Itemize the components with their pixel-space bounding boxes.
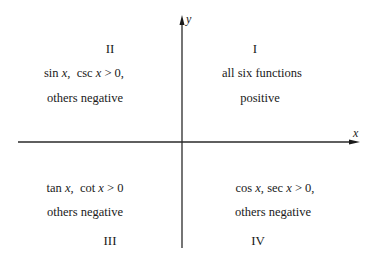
var-x: x,	[65, 181, 74, 195]
y-axis-label: y	[186, 12, 191, 27]
quadrant-i-numeral: I	[253, 42, 257, 56]
fn-sin: sin	[44, 66, 59, 80]
quadrant-iv-numeral: IV	[251, 234, 265, 248]
quadrant-iii-others: others negative	[47, 205, 123, 219]
var-x: x	[96, 66, 102, 80]
var-x: x	[98, 181, 104, 195]
var-x: x,	[255, 181, 264, 195]
quadrant-i-others: positive	[240, 91, 280, 105]
quadrant-ii-others: others negative	[47, 91, 123, 105]
fn-csc: csc	[77, 66, 93, 80]
relation: > 0,	[295, 181, 315, 195]
fn-cos: cos	[236, 181, 253, 195]
relation: > 0	[107, 181, 123, 195]
quadrant-iii-condition: tan x, cot x > 0	[47, 181, 124, 195]
var-x: x,	[62, 66, 71, 80]
quadrant-iii-numeral: III	[104, 234, 117, 248]
x-axis-label: x	[353, 126, 358, 141]
fn-cot: cot	[80, 181, 95, 195]
y-axis-arrow-icon	[180, 15, 185, 25]
quadrant-iv-others: others negative	[235, 205, 311, 219]
quadrant-ii-condition: sin x, csc x > 0,	[44, 66, 124, 80]
var-x: x	[286, 181, 292, 195]
relation: > 0,	[104, 66, 124, 80]
coordinate-axes	[0, 0, 379, 258]
quadrant-iv-condition: cos x, sec x > 0,	[236, 181, 315, 195]
quadrant-ii-numeral: II	[106, 42, 115, 56]
fn-sec: sec	[267, 181, 283, 195]
fn-tan: tan	[47, 181, 62, 195]
quadrant-i-condition: all six functions	[222, 66, 302, 80]
